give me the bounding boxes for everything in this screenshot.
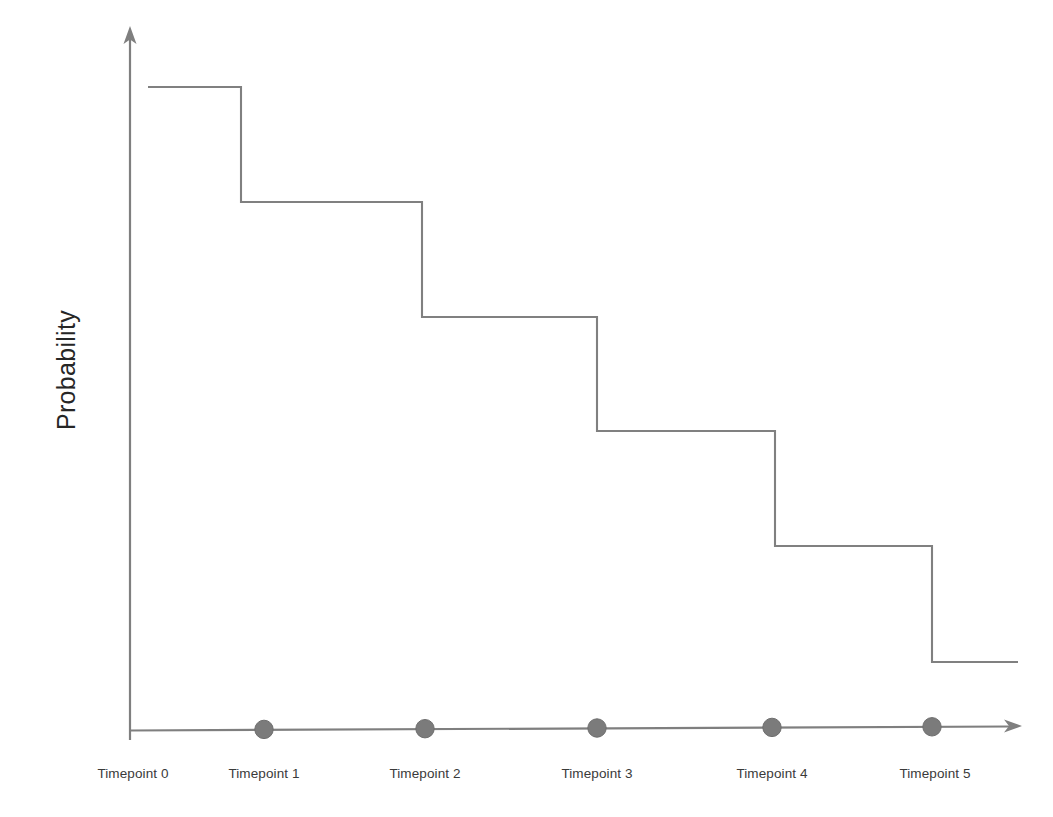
y-axis-group	[124, 26, 137, 740]
timepoint-marker-3	[588, 719, 606, 737]
step-curve-path	[148, 87, 1018, 662]
x-tick-label-timepoint-2: Timepoint 2	[389, 766, 460, 781]
timepoint-marker-2	[416, 720, 434, 738]
timepoint-marker-5	[923, 718, 941, 736]
x-tick-label-timepoint-4: Timepoint 4	[736, 766, 807, 781]
y-axis-label: Probability	[52, 310, 81, 430]
timepoint-marker-1	[255, 720, 273, 738]
timepoint-marker-4	[763, 718, 781, 736]
x-tick-label-timepoint-1: Timepoint 1	[228, 766, 299, 781]
x-tick-label-timepoint-3: Timepoint 3	[561, 766, 632, 781]
x-tick-label-timepoint-0: Timepoint 0	[97, 766, 168, 781]
chart-figure: Probability Timepoint 0 Timepoint 1 Time…	[0, 0, 1053, 817]
step-chart-svg	[0, 0, 1053, 817]
x-tick-label-timepoint-5: Timepoint 5	[899, 766, 970, 781]
